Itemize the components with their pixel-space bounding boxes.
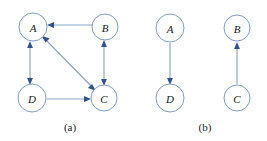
- panel-a: A B D C (a): [18, 13, 118, 134]
- edge-a-c-bidirectional: [41, 35, 96, 91]
- node-a-panel-a[interactable]: A: [19, 13, 47, 41]
- node-c-panel-a-label: C: [100, 93, 108, 105]
- panel-a-caption: (a): [64, 121, 77, 134]
- edge-b-to-a-arrowhead: [47, 22, 54, 28]
- node-a-panel-a-label: A: [29, 22, 37, 34]
- edge-b-c-arrowhead-up: [101, 40, 107, 47]
- node-d-panel-a[interactable]: D: [18, 84, 46, 112]
- edge-b-to-a: [47, 22, 92, 28]
- node-a-panel-b[interactable]: A: [156, 14, 184, 42]
- node-c-panel-a[interactable]: C: [91, 85, 117, 111]
- panel-b-caption: (b): [199, 121, 212, 134]
- edge-c-to-b-panel-b: [234, 42, 240, 84]
- edge-c-to-b-panel-b-arrowhead: [234, 42, 240, 49]
- node-b-panel-a[interactable]: B: [92, 14, 118, 40]
- node-a-panel-b-label: A: [166, 23, 174, 35]
- edge-a-to-d-panel-b: [167, 43, 173, 85]
- edge-d-to-c: [47, 96, 91, 102]
- node-d-panel-b[interactable]: D: [156, 84, 184, 112]
- edge-a-c-line: [44, 38, 95, 90]
- edge-b-c-bidirectional: [101, 40, 107, 86]
- diagram-canvas: A B D C (a): [0, 0, 267, 141]
- panel-b: A D B C (b): [156, 14, 250, 134]
- node-d-panel-b-label: D: [165, 93, 174, 105]
- node-b-panel-b-label: B: [234, 23, 241, 35]
- node-c-panel-b[interactable]: C: [224, 85, 250, 111]
- node-b-panel-b[interactable]: B: [224, 15, 250, 41]
- edge-a-d-bidirectional: [27, 41, 33, 85]
- node-b-panel-a-label: B: [102, 22, 109, 34]
- figure-container: A B D C (a): [0, 0, 267, 141]
- node-c-panel-b-label: C: [233, 93, 241, 105]
- edge-d-to-c-arrowhead: [84, 96, 91, 102]
- node-d-panel-a-label: D: [27, 93, 36, 105]
- edge-a-d-arrowhead-up: [27, 41, 33, 48]
